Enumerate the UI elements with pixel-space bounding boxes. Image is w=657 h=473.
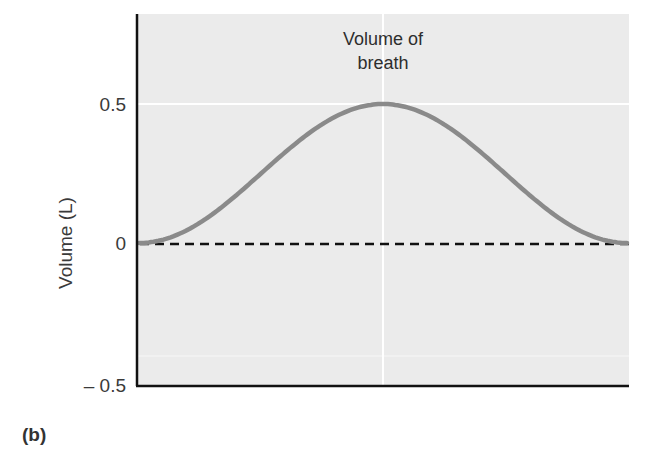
y-axis-label: Volume (L) (55, 197, 76, 289)
y-tick-0: 0 (115, 233, 126, 254)
y-tick-minus-0-5: – 0.5 (84, 375, 126, 396)
panel-label: (b) (22, 424, 46, 446)
annotation-line-2: breath (357, 53, 408, 73)
breath-volume-chart: 0.5 0 – 0.5 Volume (L) Volume of breath (0, 0, 657, 473)
annotation-line-1: Volume of (343, 29, 424, 49)
y-tick-0-5: 0.5 (100, 94, 126, 115)
